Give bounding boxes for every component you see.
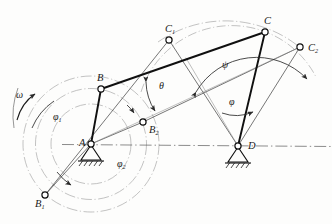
joint-label-c1: C1 [165, 23, 175, 35]
omega-label: ω [16, 89, 23, 100]
joint-label-subscript: 1 [172, 28, 175, 35]
joint-label-subscript: 2 [155, 129, 158, 136]
joint-marker-c [262, 29, 268, 35]
angle-label-phi2: φ2 [117, 158, 126, 170]
linkage-drawing-canvas: ADBCB1B2C1C2θψφφ1φ2ω [0, 0, 332, 224]
joint-label-c2: C2 [308, 42, 318, 54]
joint-label-a: A [78, 137, 86, 148]
ground-centerline [62, 145, 332, 147]
joint-marker-a [88, 141, 94, 147]
angle-arc-theta [146, 82, 155, 111]
angle-arc-phi2-upper [127, 105, 134, 113]
angle-label-psi: ψ [222, 59, 229, 70]
joint-label-b2: B2 [149, 124, 159, 136]
joint-label-b: B [97, 72, 104, 83]
angle-arc-phi [222, 112, 253, 115]
joint-marker-b2 [140, 119, 146, 125]
link-A-B [91, 89, 101, 144]
link-A-B2 [91, 122, 143, 144]
angle-label-phi1: φ1 [53, 111, 62, 123]
joint-label-subscript: 1 [41, 203, 44, 210]
joint-label-c: C [264, 15, 272, 26]
angle-label-theta: θ [159, 80, 164, 91]
angle-label-subscript: 1 [59, 116, 62, 123]
joint-marker-c2 [297, 44, 303, 50]
ray-A-through-B2 [91, 47, 300, 144]
label-layer: ADBCB1B2C1C2θψφφ1φ2ω [16, 15, 318, 210]
joint-marker-d [235, 143, 241, 149]
joint-marker-b [98, 86, 104, 92]
joint-label-subscript: 2 [315, 47, 318, 54]
kinematic-diagram-figure: ADBCB1B2C1C2θψφφ1φ2ω [0, 0, 332, 224]
angle-label-subscript: 2 [123, 163, 126, 170]
c-trace-arc-upper [158, 21, 303, 50]
link-C-D [238, 32, 265, 146]
angle-arc-group [32, 57, 307, 185]
joint-marker-layer [42, 29, 303, 198]
joint-marker-b1 [42, 192, 48, 198]
primary-linkage [91, 32, 265, 146]
link-B1-C1 [45, 40, 169, 195]
fixed-support-A [78, 145, 104, 166]
joint-marker-c1 [166, 37, 172, 43]
angle-label-phi: φ [229, 96, 235, 107]
link-B-C [101, 32, 265, 89]
c-trace-arc-lower [141, 26, 316, 92]
joint-label-b1: B1 [35, 198, 45, 210]
joint-label-d: D [247, 140, 256, 151]
